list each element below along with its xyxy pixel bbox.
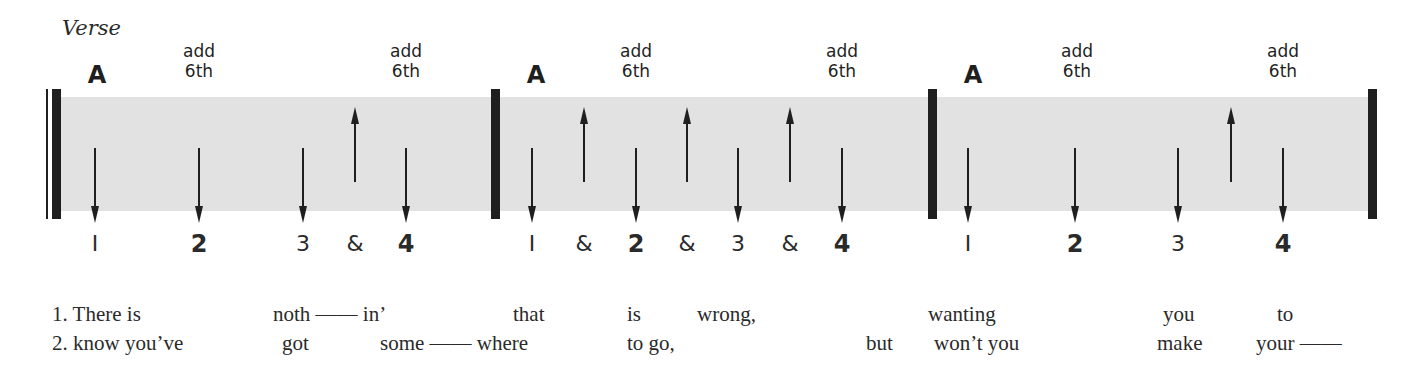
beat-number: 3	[1171, 233, 1185, 255]
beat-number: 4	[1275, 232, 1292, 256]
down-strum-arrow-icon	[1071, 148, 1079, 223]
down-strum-arrow-icon	[1174, 148, 1182, 223]
beat-number: 2	[1067, 232, 1084, 256]
beat-and: &	[575, 233, 592, 255]
beat-and: &	[781, 233, 798, 255]
beat-and: &	[678, 233, 695, 255]
lyric-line1: wrong,	[697, 304, 756, 325]
lyric-line2: to go,	[627, 333, 675, 354]
down-strum-arrow-icon	[91, 148, 99, 223]
down-strum-arrow-icon	[299, 148, 307, 223]
down-strum-arrow-icon	[734, 148, 742, 223]
beat-number: 3	[731, 233, 745, 255]
down-strum-arrow-icon	[1279, 148, 1287, 223]
lyric-line2: but	[866, 333, 893, 354]
beat-number: 3	[296, 233, 310, 255]
up-strum-arrow-icon	[580, 107, 588, 182]
up-strum-arrow-icon	[1227, 107, 1235, 182]
down-strum-arrow-icon	[964, 148, 972, 223]
down-strum-arrow-icon	[632, 148, 640, 223]
lyric-line2: 2. know you’ve	[52, 333, 183, 354]
lyric-line1: wanting	[928, 304, 996, 325]
lyric-line1: noth —— in’	[273, 304, 386, 325]
beat-number: 4	[398, 232, 415, 256]
beat-number: 4	[834, 232, 851, 256]
lyric-line2: got	[282, 333, 309, 354]
down-strum-arrow-icon	[402, 148, 410, 223]
lyric-line1: is	[627, 304, 641, 325]
beat-number: I	[92, 233, 99, 255]
up-strum-arrow-icon	[683, 107, 691, 182]
lyric-line2: your ——	[1256, 333, 1342, 354]
up-strum-arrow-icon	[351, 107, 359, 182]
lyric-line1: to	[1277, 304, 1293, 325]
lyric-line1: that	[513, 304, 545, 325]
up-strum-arrow-icon	[786, 107, 794, 182]
down-strum-arrow-icon	[528, 148, 536, 223]
beat-number: 2	[191, 232, 208, 256]
lyric-line1: you	[1163, 304, 1195, 325]
down-strum-arrow-icon	[838, 148, 846, 223]
lyric-line2: won’t you	[934, 333, 1019, 354]
beat-number: I	[965, 233, 972, 255]
lyric-line2: make	[1157, 333, 1202, 354]
lyric-line2: some —— where	[380, 333, 528, 354]
down-strum-arrow-icon	[195, 148, 203, 223]
beat-number: I	[529, 233, 536, 255]
beat-and: &	[346, 233, 363, 255]
beat-number: 2	[628, 232, 645, 256]
lyric-line1: 1. There is	[52, 304, 141, 325]
